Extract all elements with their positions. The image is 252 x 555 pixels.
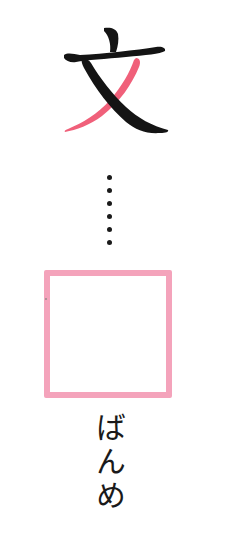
kanji-bun-glyph-icon <box>56 22 172 138</box>
reading-label-banme: ばんめ <box>88 412 128 514</box>
stroke-number-answer-box[interactable] <box>44 270 172 398</box>
dotted-connector <box>105 175 113 245</box>
dot-icon <box>107 240 112 245</box>
dot-icon <box>107 214 112 219</box>
dot-icon <box>107 201 112 206</box>
print-speck <box>45 298 47 300</box>
dot-icon <box>107 175 112 180</box>
dot-icon <box>107 188 112 193</box>
dot-icon <box>107 227 112 232</box>
kanji-stroke-order-figure <box>56 22 172 138</box>
